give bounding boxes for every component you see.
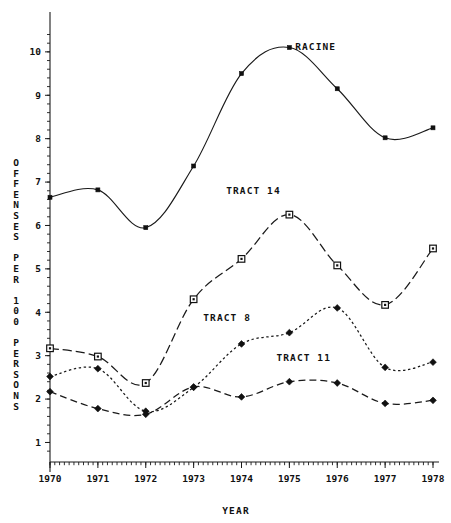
data-point-marker-core [288, 214, 290, 216]
x-tick-label: 1976 [326, 473, 349, 484]
data-point-marker [286, 378, 293, 385]
x-tick-label: 1978 [422, 473, 445, 484]
data-point-marker-core [432, 247, 434, 249]
data-point-marker [240, 72, 244, 76]
y-tick-label: 9 [35, 90, 41, 101]
y-title-char: O [6, 158, 26, 169]
data-point-marker [286, 329, 293, 336]
y-axis-title: OFFENSES PER 100 PERSONS [6, 158, 26, 412]
data-point-marker [287, 46, 291, 50]
x-tick-label: 1975 [278, 473, 301, 484]
x-tick-label: 1972 [134, 473, 157, 484]
series-label-tract-11: TRACT 11 [276, 352, 331, 363]
y-tick-label: 5 [35, 263, 41, 274]
y-title-char: S [6, 402, 26, 413]
data-point-marker [334, 305, 341, 312]
data-point-marker-core [336, 264, 338, 266]
series-markers [47, 46, 437, 418]
y-title-char: E [6, 264, 26, 275]
data-point-marker [383, 136, 387, 140]
data-point-marker-core [145, 382, 147, 384]
y-tick-label: 7 [35, 176, 41, 187]
data-point-marker-core [49, 347, 51, 349]
data-point-marker-core [97, 355, 99, 357]
data-point-marker [430, 359, 437, 366]
y-tick-label: 8 [35, 133, 41, 144]
data-point-marker [192, 164, 196, 168]
y-tick-label: 1 [35, 437, 41, 448]
data-point-marker-core [193, 298, 195, 300]
y-title-char: 0 [6, 317, 26, 328]
y-tick-label: 2 [35, 393, 41, 404]
data-point-marker [382, 364, 389, 371]
data-point-marker [238, 341, 245, 348]
data-point-marker [238, 394, 245, 401]
x-tick-label: 1973 [182, 473, 205, 484]
data-point-marker [334, 380, 341, 387]
data-point-marker [431, 126, 435, 130]
data-point-marker [48, 195, 52, 199]
x-tick-label: 1970 [39, 473, 62, 484]
x-tick-label: 1971 [86, 473, 109, 484]
data-point-marker [94, 365, 101, 372]
series-label-racine: RACINE [295, 41, 336, 52]
data-point-marker-core [384, 304, 386, 306]
data-point-marker [96, 188, 100, 192]
x-axis-title: YEAR [222, 505, 250, 516]
series-curves [50, 47, 433, 416]
data-point-marker [47, 388, 54, 395]
series-label-tract-14: TRACT 14 [226, 185, 281, 196]
axes-group [45, 12, 439, 472]
data-point-marker [47, 373, 54, 380]
data-point-marker [144, 226, 148, 230]
data-point-marker [335, 87, 339, 91]
series-label-tract-8: TRACT 8 [203, 312, 251, 323]
y-tick-label: 10 [30, 46, 42, 57]
x-tick-label: 1977 [374, 473, 397, 484]
x-tick-labels: 197019711972197319741975197619771978 [39, 473, 445, 484]
series-line-tract-14 [50, 215, 433, 385]
y-tick-label: 4 [35, 307, 41, 318]
chart-canvas: 12345678910 1970197119721973197419751976… [0, 0, 451, 523]
y-tick-labels: 12345678910 [30, 46, 42, 448]
offenses-per-100-persons-line-chart: OFFENSES PER 100 PERSONS 12345678910 197… [0, 0, 451, 523]
y-tick-label: 3 [35, 350, 41, 361]
series-inline-labels: RACINETRACT 14TRACT 8TRACT 11 [203, 41, 336, 363]
y-tick-label: 6 [35, 220, 41, 231]
y-title-char: S [6, 211, 26, 222]
data-point-marker-core [240, 258, 242, 260]
data-point-marker [94, 405, 101, 412]
data-point-marker [382, 400, 389, 407]
x-tick-label: 1974 [230, 473, 253, 484]
data-point-marker [430, 397, 437, 404]
